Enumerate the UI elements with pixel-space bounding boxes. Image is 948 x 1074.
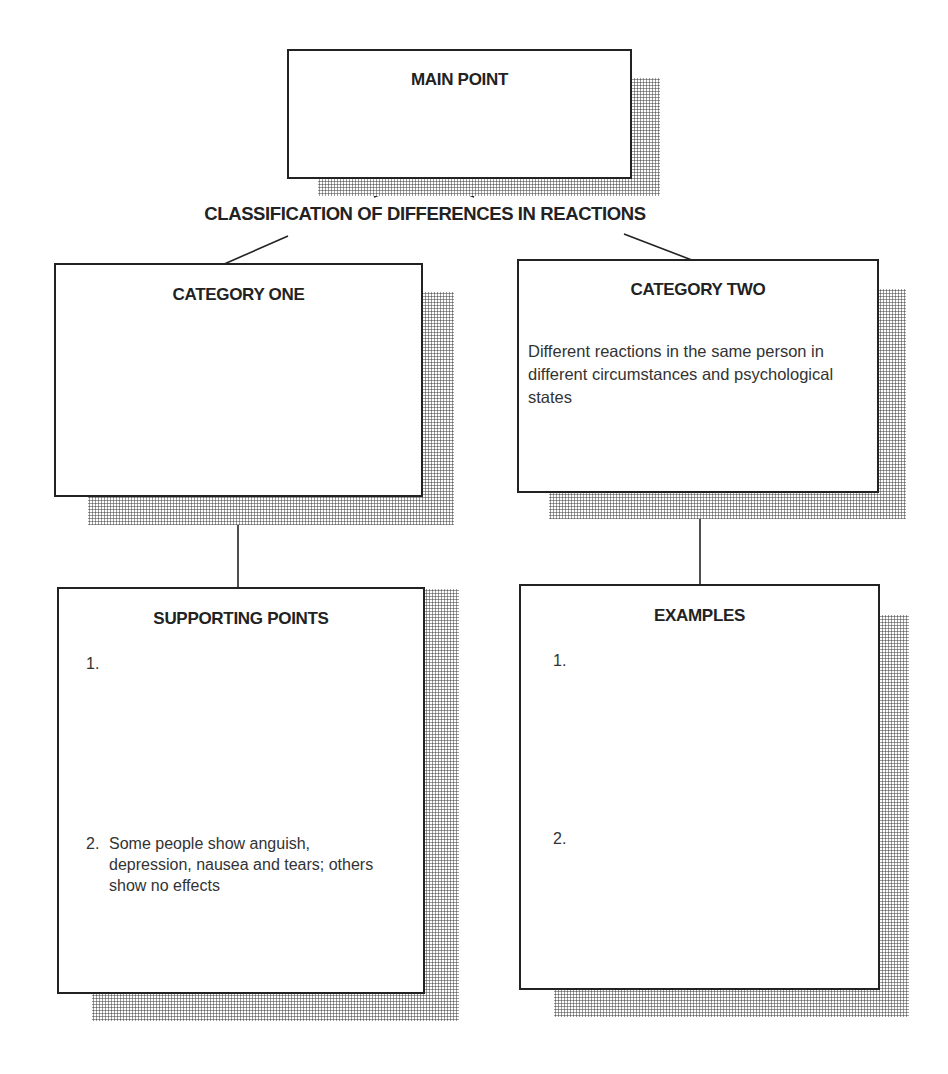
item-text: Some people show anguish, depression, na…: [109, 833, 386, 896]
examples-title: EXAMPLES: [521, 606, 878, 626]
main-point-box: MAIN POINT: [287, 49, 632, 179]
item-number: 1.: [553, 650, 576, 671]
category-two-body: Different reactions in the same person i…: [528, 340, 873, 409]
item-number: 1.: [86, 653, 109, 674]
main-point-title: MAIN POINT: [289, 70, 630, 90]
category-two-title: CATEGORY TWO: [519, 280, 877, 300]
example-item: 2.: [553, 828, 853, 849]
diagram-title: CLASSIFICATION OF DIFFERENCES IN REACTIO…: [0, 203, 850, 225]
category-one-title: CATEGORY ONE: [56, 285, 421, 305]
supporting-points-title: SUPPORTING POINTS: [59, 609, 423, 629]
title-to-category-one-line: [222, 236, 288, 265]
supporting-points-box: SUPPORTING POINTS 1. 2. Some people show…: [57, 587, 425, 994]
supporting-point-item: 1.: [86, 653, 406, 674]
item-number: 2.: [86, 833, 109, 896]
title-to-category-two-line: [624, 234, 697, 262]
example-item: 1.: [553, 650, 853, 671]
category-two-box: CATEGORY TWO Different reactions in the …: [517, 259, 879, 493]
supporting-point-item: 2. Some people show anguish, depression,…: [86, 833, 386, 896]
item-number: 2.: [553, 828, 576, 849]
category-one-box: CATEGORY ONE: [54, 263, 423, 497]
examples-box: EXAMPLES 1. 2.: [519, 584, 880, 990]
